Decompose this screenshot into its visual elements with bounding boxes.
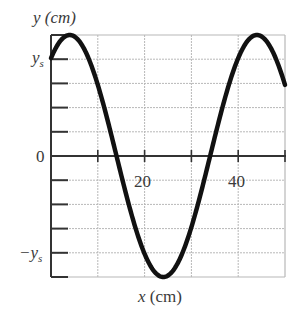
neg-ys-subscript: s — [38, 252, 42, 264]
axes — [51, 35, 286, 277]
y-axis-label: y (cm) — [33, 9, 76, 26]
wave-chart — [0, 0, 299, 318]
zero-tick-label: 0 — [36, 148, 45, 165]
x-axis-unit: (cm) — [146, 287, 182, 306]
x-axis-var: x — [138, 287, 146, 306]
x-tick-label-20: 20 — [134, 173, 151, 190]
x-axis-label: x (cm) — [138, 288, 182, 305]
ys-subscript: s — [40, 57, 44, 69]
x-tick-label-40: 40 — [228, 173, 245, 190]
neg-ys-tick-label: −ys — [19, 244, 42, 264]
y-axis-label-text: y (cm) — [33, 8, 76, 27]
ys-text: y — [32, 48, 40, 67]
ys-tick-label: ys — [32, 49, 44, 69]
neg-ys-text: −y — [19, 243, 38, 262]
